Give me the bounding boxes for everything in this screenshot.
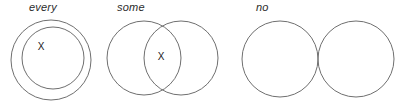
circle-left-no <box>242 21 318 97</box>
venn-circles-no <box>232 0 408 103</box>
x-mark-some: X <box>158 52 165 62</box>
diagram-no: no <box>232 0 408 103</box>
diagram-every: every X <box>0 0 100 103</box>
circle-inner-every <box>22 27 84 89</box>
x-mark-every: X <box>38 42 45 52</box>
venn-figure: every X some X no <box>0 0 408 103</box>
venn-circles-every <box>0 0 100 103</box>
circle-outer-every <box>11 20 91 100</box>
circle-right-no <box>318 21 394 97</box>
diagram-some: some X <box>100 0 225 103</box>
